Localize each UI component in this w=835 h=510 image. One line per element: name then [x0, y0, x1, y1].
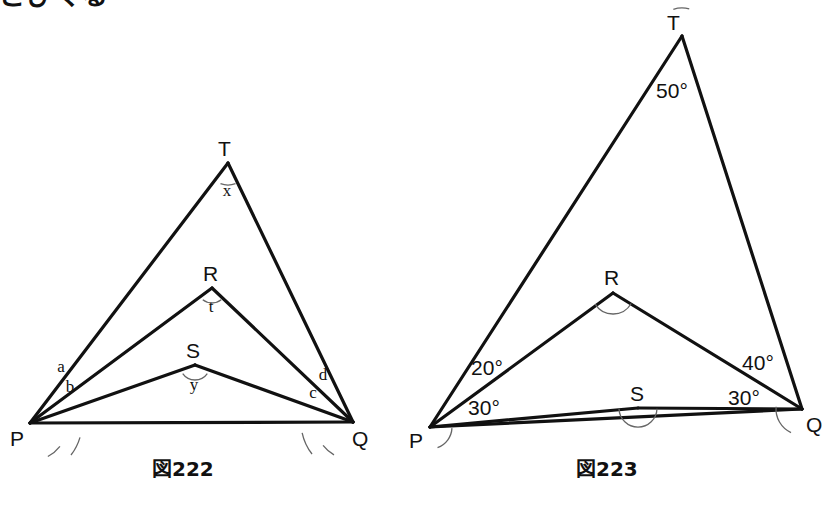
- segment-ps: [30, 365, 195, 423]
- angle-40-at-q: 40°: [742, 351, 774, 374]
- arc-b: [71, 437, 80, 455]
- figure-page: とびくる PQRSTxtyabdcPQRST50°20°30°40°30° 図2…: [0, 0, 835, 510]
- segment-pr: [430, 293, 613, 427]
- angle-30-at-p: 30°: [468, 396, 500, 419]
- arc-p: [438, 428, 452, 448]
- figure-223: PQRST50°20°30°40°30°: [409, 8, 822, 452]
- segment-pr: [30, 288, 212, 423]
- arc-r: [595, 304, 631, 315]
- vertex-label-q: Q: [806, 413, 822, 436]
- vertex-label-r: R: [604, 266, 619, 289]
- arc-a: [48, 446, 60, 456]
- figure-222-caption: 図222: [152, 453, 214, 482]
- arc-t: [673, 8, 689, 9]
- vertex-label-s: S: [630, 382, 644, 405]
- angle-x-at-t: x: [223, 181, 232, 200]
- angle-a-at-p: a: [57, 357, 65, 376]
- vertex-label-r: R: [203, 262, 218, 285]
- angle-b-at-p: b: [66, 377, 75, 396]
- vertex-label-t: T: [667, 11, 680, 34]
- segment-pt: [30, 163, 228, 423]
- angle-30-at-q: 30°: [728, 386, 760, 409]
- vertex-label-q: Q: [352, 427, 368, 450]
- angle-t-at-r: t: [209, 297, 214, 316]
- angle-y-at-s: y: [190, 375, 199, 394]
- geometry-figures: PQRSTxtyabdcPQRST50°20°30°40°30°: [0, 0, 835, 510]
- angle-d-at-q: d: [319, 365, 328, 384]
- segment-rq: [212, 288, 353, 422]
- vertex-label-t: T: [218, 137, 231, 160]
- segment-pt: [430, 36, 682, 427]
- arc-d: [323, 445, 334, 455]
- vertex-label-s: S: [186, 339, 200, 362]
- figure-223-caption: 図223: [576, 453, 638, 482]
- segment-sq: [638, 408, 802, 409]
- angle-20-at-p: 20°: [471, 356, 503, 379]
- arc-c: [302, 433, 312, 454]
- vertex-label-p: P: [10, 427, 24, 450]
- angle-c-at-q: c: [309, 383, 317, 402]
- segment-pq: [30, 422, 353, 423]
- angle-50-at-t: 50°: [656, 79, 688, 102]
- figure-222: PQRSTxtyabdc: [10, 137, 368, 457]
- vertex-label-p: P: [409, 429, 423, 452]
